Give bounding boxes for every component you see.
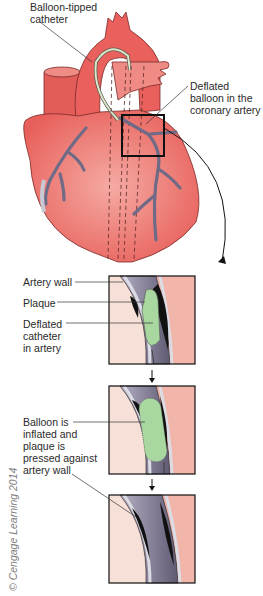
label-plaque: Plaque: [23, 297, 56, 309]
label-balloon-tipped-catheter: Balloon-tipped catheter: [30, 1, 97, 25]
panel-deflated: [57, 276, 195, 364]
label-balloon-inflated: Balloon is inflated and plaque is presse…: [23, 416, 97, 476]
label-deflated-catheter: Deflated catheter in artery: [23, 318, 62, 354]
copyright-notice: © Cengage Learning 2014: [7, 441, 19, 591]
label-deflated-balloon: Deflated balloon in the coronary artery: [190, 80, 261, 116]
panel-result: [72, 474, 195, 583]
label-artery-wall: Artery wall: [23, 276, 72, 288]
